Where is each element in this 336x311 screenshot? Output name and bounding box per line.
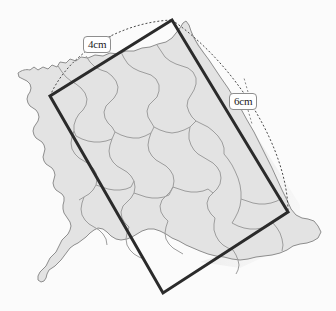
width-label: 4cm (83, 36, 111, 53)
figure-root: 4cm 6cm (0, 0, 336, 311)
figure-canvas (0, 0, 336, 311)
height-label: 6cm (229, 93, 257, 110)
leader-6cm (244, 78, 248, 92)
